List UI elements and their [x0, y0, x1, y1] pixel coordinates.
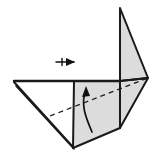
origami-figure-svg: Origami folding step diagram Line drawin…	[0, 0, 156, 162]
panel-vertical-divider	[73, 81, 74, 148]
origami-diagram: Origami folding step diagram Line drawin…	[0, 0, 156, 162]
